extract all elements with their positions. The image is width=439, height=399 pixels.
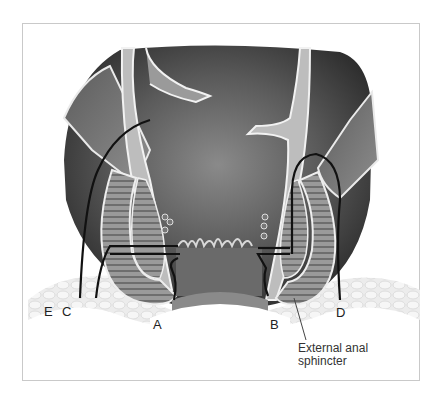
label-D: D (336, 306, 345, 319)
anorectal-illustration (0, 0, 439, 399)
anal-glands-right (261, 214, 268, 239)
label-A: A (153, 318, 162, 331)
label-C: C (62, 305, 71, 318)
callout-external-anal-sphincter: External anal sphincter (298, 342, 368, 368)
anal-canal (176, 248, 262, 296)
callout-line-2: sphincter (298, 355, 368, 368)
label-E: E (44, 305, 53, 318)
label-B: B (270, 318, 279, 331)
anal-verge (150, 304, 290, 330)
